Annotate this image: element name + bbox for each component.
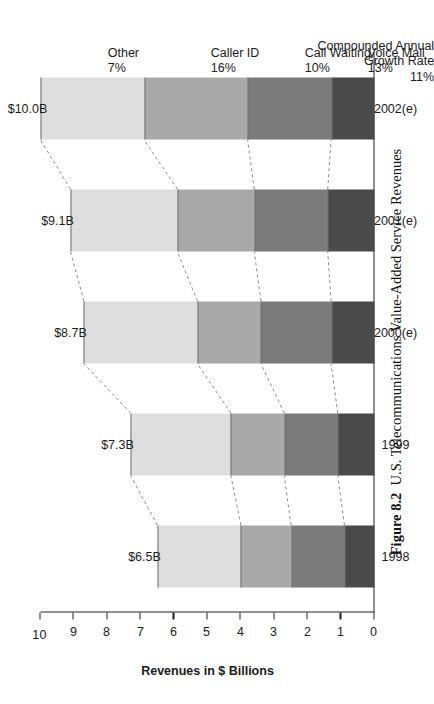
bar-group[interactable]: $7.3B1999 bbox=[40, 413, 374, 476]
bar-total-label: $7.3B bbox=[101, 437, 134, 451]
bar-group[interactable]: $8.7B2000(e) bbox=[40, 301, 374, 364]
value-tick: 2 bbox=[306, 612, 307, 619]
value-tick-label: 1 bbox=[336, 625, 343, 639]
bar-segment[interactable] bbox=[327, 189, 374, 252]
series-annotation-rate: 16% bbox=[211, 61, 260, 76]
bar-segment[interactable] bbox=[240, 525, 290, 588]
bar-segment[interactable] bbox=[291, 525, 344, 588]
bar-segment[interactable] bbox=[284, 413, 337, 476]
bar-segment[interactable] bbox=[260, 301, 330, 364]
value-tick: 7 bbox=[139, 612, 140, 619]
bar-group[interactable]: $9.1B2001(e) bbox=[40, 189, 374, 252]
value-tick-label: 0 bbox=[370, 625, 377, 639]
bar-group[interactable]: $6.5B1998 bbox=[40, 525, 374, 588]
series-annotation: Caller ID16% bbox=[211, 45, 260, 76]
value-axis-title: Revenues in $ Billions bbox=[141, 663, 274, 677]
value-tick: 8 bbox=[106, 612, 107, 619]
bar-total-label: $9.1B bbox=[41, 213, 74, 227]
value-tick: 3 bbox=[273, 612, 274, 619]
value-tick: 10 bbox=[39, 612, 40, 619]
category-label: 2002(e) bbox=[373, 101, 416, 115]
value-tick-label: 7 bbox=[136, 625, 143, 639]
value-tick-label: 10 bbox=[32, 628, 46, 642]
value-tick-label: 9 bbox=[69, 625, 76, 639]
value-tick: 0 bbox=[373, 612, 374, 619]
bar-segment[interactable] bbox=[254, 189, 327, 252]
plot-area: 109876543210 Revenues in $ Billions $6.5… bbox=[40, 52, 374, 612]
bar-segment[interactable] bbox=[130, 413, 230, 476]
bar-segment[interactable] bbox=[344, 525, 374, 588]
bar-segment[interactable] bbox=[337, 413, 374, 476]
cagr-header-line2: Growth Rate bbox=[317, 53, 434, 68]
bar-segment[interactable] bbox=[83, 301, 197, 364]
value-tick-label: 2 bbox=[303, 625, 310, 639]
bar-total-label: $8.7B bbox=[54, 325, 87, 339]
bar-stack bbox=[83, 301, 374, 364]
bar-segment[interactable] bbox=[331, 77, 374, 140]
caption-figure-number: Figure 8.2 bbox=[388, 493, 404, 556]
value-tick: 6 bbox=[172, 612, 173, 619]
value-tick-label: 3 bbox=[270, 625, 277, 639]
caption-spacer bbox=[388, 485, 404, 492]
cagr-header-line1: Compounded Annual bbox=[317, 38, 434, 53]
cagr-header-block: Compounded Annual Growth Rate 11% bbox=[317, 38, 434, 84]
value-tick-label: 5 bbox=[203, 625, 210, 639]
bar-segment[interactable] bbox=[197, 301, 260, 364]
bar-group[interactable]: $10.0B2002(e) bbox=[40, 77, 374, 140]
series-annotation-rate: 7% bbox=[107, 61, 138, 76]
bar-segment[interactable] bbox=[157, 525, 241, 588]
bar-segment[interactable] bbox=[247, 77, 331, 140]
figure-caption: Figure 8.2 U.S. Telecommunications Value… bbox=[388, 149, 405, 556]
bar-stack bbox=[40, 77, 374, 140]
bar-segment[interactable] bbox=[177, 189, 254, 252]
bar-segment[interactable] bbox=[230, 413, 283, 476]
bar-series-group: $6.5B1998$7.3B1999$8.7B2000(e)$9.1B2001(… bbox=[40, 52, 374, 612]
value-tick-label: 6 bbox=[169, 625, 176, 639]
series-annotation: Other7% bbox=[107, 45, 138, 76]
value-tick: 1 bbox=[339, 612, 340, 619]
caption-text: U.S. Telecommunications Value-Added Serv… bbox=[388, 149, 404, 486]
bar-total-label: $6.5B bbox=[128, 549, 161, 563]
series-annotation-name: Caller ID bbox=[211, 45, 260, 60]
bar-stack bbox=[70, 189, 374, 252]
bar-total-label: $10.0B bbox=[7, 101, 47, 115]
bar-segment[interactable] bbox=[331, 301, 374, 364]
bar-segment[interactable] bbox=[70, 189, 177, 252]
cagr-overall-rate: 11% bbox=[317, 68, 434, 83]
value-tick: 9 bbox=[72, 612, 73, 619]
value-tick-label: 4 bbox=[236, 625, 243, 639]
value-tick: 4 bbox=[239, 612, 240, 619]
bar-stack bbox=[130, 413, 374, 476]
bar-segment[interactable] bbox=[144, 77, 248, 140]
value-tick: 5 bbox=[206, 612, 207, 619]
value-tick-label: 8 bbox=[103, 625, 110, 639]
bar-segment[interactable] bbox=[40, 77, 144, 140]
series-annotation-name: Other bbox=[107, 45, 138, 60]
bar-stack bbox=[157, 525, 374, 588]
